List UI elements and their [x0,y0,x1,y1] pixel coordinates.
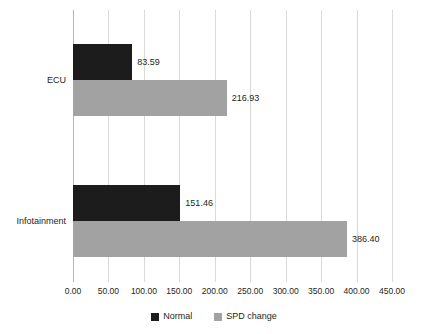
category-label-ecu: ECU [47,76,66,85]
gridline-450-00 [392,10,393,282]
bar-value-ecu-normal: 83.59 [137,58,160,67]
legend-label-spd-change: SPD change [226,312,277,321]
bar-value-ecu-spd: 216.93 [232,94,260,103]
legend-label-normal: Normal [163,312,192,321]
bar-value-infotainment-normal: 151.46 [185,199,213,208]
bar-chart: 83.59 216.93 151.46 386.40 ECU Infotainm… [0,0,428,334]
x-tick-label-100-00: 100.00 [131,287,157,296]
x-tick-label-50-00: 50.00 [98,287,119,296]
bar-value-infotainment-spd: 386.40 [352,235,380,244]
x-tick-label-200-00: 200.00 [202,287,228,296]
legend-swatch-normal-icon [151,313,159,321]
x-tick-label-150-00: 150.00 [166,287,192,296]
x-tick-label-300-00: 300.00 [273,287,299,296]
category-label-infotainment: Infotainment [16,217,66,226]
x-tick-label-250-00: 250.00 [237,287,263,296]
legend-item-normal[interactable]: Normal [151,312,192,321]
plot-area: 83.59 216.93 151.46 386.40 [73,10,392,282]
x-tick-label-400-00: 400.00 [344,287,370,296]
bar-ecu-normal [73,44,132,80]
bar-ecu-spd [73,80,227,116]
bar-infotainment-normal [73,185,180,221]
x-tick-label-350-00: 350.00 [308,287,334,296]
legend-swatch-spd-change-icon [214,313,222,321]
x-tick-label-450-00: 450.00 [379,287,405,296]
bar-infotainment-spd [73,221,347,257]
x-tick-label-0-00: 0.00 [65,287,82,296]
chart-legend: Normal SPD change [0,312,428,321]
legend-item-spd-change[interactable]: SPD change [214,312,277,321]
chart-title [70,0,370,5]
